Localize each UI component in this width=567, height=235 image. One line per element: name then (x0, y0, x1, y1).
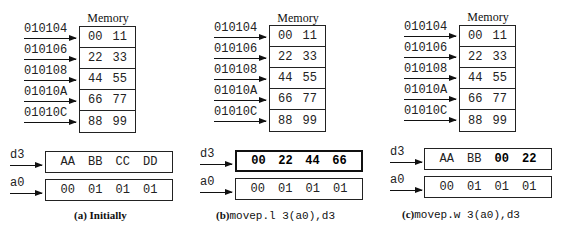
arrow-icon (214, 121, 266, 122)
memory-byte: 44 (278, 71, 292, 85)
arrow-icon (404, 78, 456, 79)
caption-text: Initially (90, 209, 127, 221)
address-label: 01010C (214, 106, 257, 118)
memory-row: 0011 (80, 27, 135, 48)
memory-row: 0011 (270, 26, 325, 47)
address-label: 010108 (404, 63, 447, 75)
address-label: 010108 (24, 65, 67, 77)
address-label: 010104 (24, 23, 67, 35)
caption-tag: (c) (402, 208, 414, 220)
memory-row: 0011 (460, 26, 515, 47)
memory-byte: 11 (303, 29, 317, 43)
register-byte: 01 (518, 180, 540, 194)
address-label: 010104 (214, 22, 257, 34)
memory-byte: 66 (88, 93, 102, 107)
caption-code: movep.l 3(a0),d3 (229, 210, 335, 222)
register-byte: AA (436, 152, 458, 166)
register-a0: 00 01 01 01 (235, 178, 363, 200)
arrow-icon (200, 164, 232, 165)
memory-row: 4455 (80, 69, 135, 90)
register-byte: 01 (139, 183, 161, 197)
memory-byte: 66 (468, 92, 482, 106)
memory-row: 6677 (80, 90, 135, 111)
panel-a: Memory 010104 010106 010108 01010A 01010… (0, 0, 190, 235)
memory-byte: 77 (303, 92, 317, 106)
arrow-icon (214, 37, 266, 38)
memory-byte: 22 (278, 50, 292, 64)
caption-c: (c)movep.w 3(a0),d3 (402, 208, 520, 221)
memory-byte: 33 (113, 51, 127, 65)
register-d3: AA BB 00 22 (424, 148, 552, 170)
address-label: 01010A (24, 86, 67, 98)
memory-row: 2233 (270, 47, 325, 68)
memory-row: 8899 (80, 111, 135, 132)
memory-byte: 33 (493, 50, 507, 64)
panel-b: Memory 010104 010106 010108 01010A 01010… (190, 0, 380, 235)
arrow-icon (214, 79, 266, 80)
arrow-icon (10, 193, 42, 194)
memory-byte: 88 (468, 114, 482, 128)
memory-byte: 88 (88, 115, 102, 129)
register-byte: 01 (329, 182, 351, 196)
memory-table: 0011 2233 4455 6677 8899 (459, 25, 516, 132)
arrow-icon (214, 100, 266, 101)
arrow-icon (404, 99, 456, 100)
address-label: 01010C (24, 107, 67, 119)
memory-row: 6677 (460, 89, 515, 110)
register-byte: 01 (302, 182, 324, 196)
memory-byte: 44 (468, 71, 482, 85)
memory-byte: 33 (303, 50, 317, 64)
memory-table: 0011 2233 4455 6677 8899 (79, 26, 136, 133)
register-byte: 00 (57, 183, 79, 197)
memory-byte: 00 (278, 29, 292, 43)
address-label: 010104 (404, 21, 447, 33)
memory-byte: 77 (493, 92, 507, 106)
memory-byte: 00 (468, 29, 482, 43)
memory-title: Memory (268, 11, 328, 26)
memory-byte: 44 (88, 72, 102, 86)
register-label-d3: d3 (200, 148, 214, 160)
register-byte: 01 (463, 180, 485, 194)
register-label-a0: a0 (200, 176, 214, 188)
memory-row: 8899 (460, 110, 515, 131)
register-a0: 00 01 01 01 (424, 176, 552, 198)
memory-byte: 55 (113, 72, 127, 86)
address-label: 010106 (214, 43, 257, 55)
arrow-icon (214, 58, 266, 59)
memory-row: 8899 (270, 110, 325, 131)
memory-row: 4455 (270, 68, 325, 89)
caption-tag: (b) (216, 209, 229, 221)
arrow-icon (404, 57, 456, 58)
memory-row: 6677 (270, 89, 325, 110)
memory-byte: 11 (493, 29, 507, 43)
arrow-icon (390, 190, 422, 191)
register-label-d3: d3 (390, 146, 404, 158)
memory-table: 0011 2233 4455 6677 8899 (269, 25, 326, 132)
address-label: 010106 (24, 44, 67, 56)
arrow-icon (24, 80, 76, 81)
memory-row: 2233 (80, 48, 135, 69)
register-byte: 66 (329, 154, 351, 168)
register-label-d3: d3 (10, 149, 24, 161)
memory-byte: 88 (278, 114, 292, 128)
caption-code: movep.w 3(a0),d3 (414, 209, 520, 221)
memory-byte: 66 (278, 92, 292, 106)
arrow-icon (10, 165, 42, 166)
register-byte: 00 (248, 154, 270, 168)
register-byte: CC (112, 155, 134, 169)
memory-title: Memory (78, 11, 138, 26)
memory-byte: 11 (113, 30, 127, 44)
memory-byte: 99 (113, 115, 127, 129)
memory-title: Memory (458, 10, 518, 25)
arrow-icon (404, 36, 456, 37)
memory-byte: 55 (303, 71, 317, 85)
arrow-icon (24, 101, 76, 102)
register-byte: 22 (518, 152, 540, 166)
memory-row: 2233 (460, 47, 515, 68)
register-d3: AA BB CC DD (45, 151, 173, 173)
register-byte: AA (57, 155, 79, 169)
caption-b: (b)movep.l 3(a0),d3 (216, 209, 335, 222)
address-label: 01010A (404, 84, 447, 96)
address-label: 010108 (214, 64, 257, 76)
register-byte: 00 (491, 152, 513, 166)
